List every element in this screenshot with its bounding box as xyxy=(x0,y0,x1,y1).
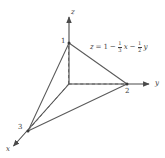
dashed-origin-to-x xyxy=(29,84,69,130)
plane-region-figure: z y x 1 2 3 z = 1 − 1 3 x − 1 2 y xyxy=(0,0,165,158)
fraction-y-numerator: 1 xyxy=(138,41,142,46)
y-intercept-label: 2 xyxy=(125,88,129,95)
equation-minus-1: − xyxy=(109,43,116,50)
plane-equation: z = 1 − 1 3 x − 1 2 y xyxy=(90,41,147,53)
diagram-canvas xyxy=(0,0,165,158)
equation-lhs: z xyxy=(90,43,94,50)
x-axis-label: x xyxy=(6,146,10,153)
equation-var-y: y xyxy=(143,43,147,50)
vertex-x-dot xyxy=(27,130,30,133)
equation-equals: = xyxy=(95,43,102,50)
equation-constant: 1 xyxy=(103,43,108,50)
equation-fraction-y: 1 2 xyxy=(138,41,142,53)
fraction-x-denominator: 3 xyxy=(118,48,122,53)
z-axis-label: z xyxy=(71,9,75,16)
x-intercept-label: 3 xyxy=(18,124,22,131)
plane-triangle xyxy=(28,43,127,131)
fraction-x-numerator: 1 xyxy=(118,41,122,46)
vertex-z-dot xyxy=(68,42,71,45)
equation-minus-2: − xyxy=(129,43,136,50)
equation-fraction-x: 1 3 xyxy=(118,41,122,53)
fraction-y-denominator: 2 xyxy=(138,48,142,53)
y-axis-label: y xyxy=(155,80,159,87)
vertex-y-dot xyxy=(126,83,129,86)
equation-var-x: x xyxy=(124,43,128,50)
z-intercept-label: 1 xyxy=(61,38,65,45)
